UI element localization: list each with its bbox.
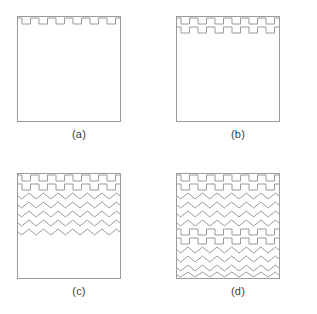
square-wave-row-group <box>177 229 279 244</box>
square-wave-row <box>177 238 279 244</box>
square-wave-row <box>18 18 120 24</box>
square-wave-row <box>177 27 279 33</box>
panel-a-square <box>17 16 121 122</box>
square-wave-row <box>177 229 279 235</box>
panel-d-wave-rows <box>177 174 279 278</box>
panel-b-wave-rows <box>177 17 279 121</box>
zigzag-row <box>18 229 120 235</box>
panel-a-wave-svg <box>18 17 120 121</box>
panel-d-square <box>176 173 280 279</box>
zigzag-row <box>177 193 279 199</box>
panel-a-wave-rows <box>18 17 120 121</box>
zigzag-row <box>177 211 279 217</box>
square-wave-row <box>18 184 120 190</box>
panel-a-label: (a) <box>0 128 158 140</box>
square-wave-row <box>177 184 279 190</box>
panel-c-label: (c) <box>0 285 158 297</box>
panel-b: (b) <box>159 0 317 157</box>
square-wave-row <box>177 175 279 181</box>
square-wave-row-group <box>18 175 120 190</box>
square-wave-row <box>18 175 120 181</box>
panel-b-square <box>176 16 280 122</box>
zigzag-row <box>177 256 279 262</box>
zigzag-row <box>18 220 120 226</box>
panel-d-wave-svg <box>177 174 279 278</box>
square-wave-row-group <box>177 18 279 33</box>
square-wave-row <box>177 18 279 24</box>
panel-b-wave-svg <box>177 17 279 121</box>
panel-c-wave-rows <box>18 174 120 278</box>
zigzag-row <box>18 202 120 208</box>
zigzag-row-group <box>18 193 120 235</box>
figure-container: (a) (b) <box>0 0 317 314</box>
panel-c-wave-svg <box>18 174 120 278</box>
zigzag-row <box>177 265 279 271</box>
square-wave-row-group <box>177 175 279 190</box>
zigzag-row-group <box>177 247 279 277</box>
square-wave-row-group <box>18 18 120 24</box>
panel-b-label: (b) <box>159 128 317 140</box>
zigzag-row-group <box>177 193 279 226</box>
zigzag-row <box>177 220 279 226</box>
panel-c-square <box>17 173 121 279</box>
zigzag-row <box>177 247 279 253</box>
zigzag-row <box>18 193 120 199</box>
panel-d-label: (d) <box>159 285 317 297</box>
panel-d: (d) <box>159 157 317 314</box>
panel-c: (c) <box>0 157 158 314</box>
zigzag-row <box>177 272 279 277</box>
zigzag-row <box>177 202 279 208</box>
zigzag-row <box>18 211 120 217</box>
panel-a: (a) <box>0 0 158 157</box>
